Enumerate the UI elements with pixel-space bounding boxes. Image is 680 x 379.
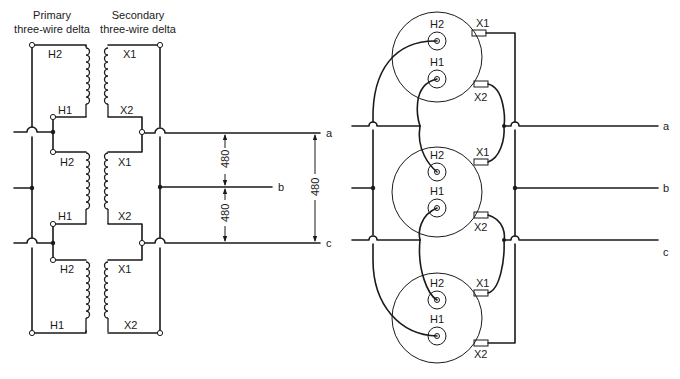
bushing-label: H2 <box>430 18 444 30</box>
bushing-label: X1 <box>476 17 489 29</box>
bushing-label: X1 <box>476 277 489 289</box>
line-c-label: c <box>326 237 332 249</box>
voltage-dimension-ab: 480 <box>219 134 231 186</box>
primary-label: H2 <box>60 263 74 275</box>
right-pictorial: H2 H1 X1 X2 H2 H1 X1 X2 H2 H1 X1 X2 a b <box>352 12 670 363</box>
line-c-label: c <box>663 246 669 258</box>
svg-text:480: 480 <box>309 178 321 196</box>
bushing-label: X2 <box>474 91 487 103</box>
bushing-label: H2 <box>430 149 444 161</box>
primary-label: H1 <box>50 319 64 331</box>
primary-label: H1 <box>58 210 72 222</box>
svg-text:480: 480 <box>219 204 231 222</box>
line-a-label: a <box>326 127 333 139</box>
secondary-header-sub: three-wire delta <box>100 23 177 35</box>
primary-header: Primary <box>33 9 71 21</box>
line-a-label: a <box>663 120 670 132</box>
line-c <box>504 236 658 240</box>
line-c <box>145 238 320 243</box>
voltage-dimension-bc: 480 <box>219 188 231 242</box>
svg-text:480: 480 <box>219 150 231 168</box>
bushing-label: X1 <box>476 146 489 158</box>
line-b-label: b <box>278 181 284 193</box>
primary-label: H2 <box>60 156 74 168</box>
bushing-label: H1 <box>430 56 444 68</box>
bushing-label: H2 <box>430 277 444 289</box>
bushing-label: H1 <box>430 185 444 197</box>
secondary-label: X2 <box>120 104 133 116</box>
primary-label: H2 <box>48 48 62 60</box>
line-a <box>145 128 320 133</box>
bushing-label: X2 <box>474 221 487 233</box>
secondary-label: X1 <box>123 48 136 60</box>
bushing-label: X2 <box>474 348 487 360</box>
line-b-label: b <box>663 182 669 194</box>
delta-delta-transformer-diagram: Primary three-wire delta Secondary three… <box>0 0 680 379</box>
left-schematic: Primary three-wire delta Secondary three… <box>14 9 333 336</box>
line-a <box>504 122 658 126</box>
x-bushings <box>472 30 488 346</box>
primary-header-sub: three-wire delta <box>14 23 91 35</box>
secondary-header: Secondary <box>112 9 165 21</box>
secondary-label: X2 <box>118 210 131 222</box>
primary-label: H1 <box>58 104 72 116</box>
secondary-label: X1 <box>118 263 131 275</box>
secondary-label: X2 <box>124 319 137 331</box>
bushing-label: H1 <box>430 313 444 325</box>
secondary-label: X1 <box>118 156 131 168</box>
voltage-dimension-ac: 480 <box>309 134 321 242</box>
